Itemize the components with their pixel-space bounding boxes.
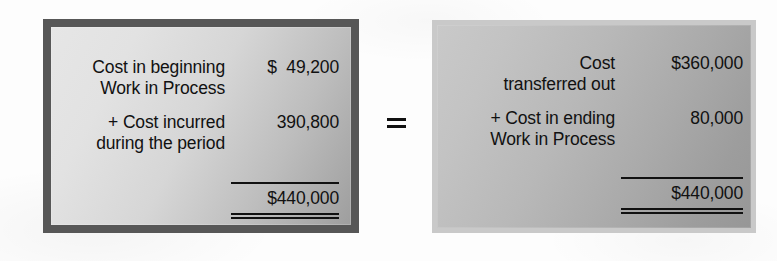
right-total-rule-top: [621, 177, 743, 179]
left-total-rule-top: [231, 182, 339, 184]
left-total-value: $440,000: [231, 187, 339, 209]
costs-accounted-for-panel: Cost transferred out $360,000 + Cost in …: [432, 20, 756, 233]
right-total-rule-double: [621, 208, 743, 214]
left-total-block: $440,000: [231, 182, 339, 219]
right-row-ending-wip-amount: 80,000: [621, 108, 743, 129]
left-row-cost-incurred-label: + Cost incurred during the period: [63, 112, 225, 154]
left-total-rule-double: [231, 213, 339, 219]
equals-icon: [387, 118, 406, 131]
right-total-block: $440,000: [621, 177, 743, 214]
right-row-transferred-out: Cost transferred out $360,000: [445, 53, 743, 95]
costs-to-account-for-panel: Cost in beginning Work in Process $ 49,2…: [43, 19, 359, 233]
equals-bar-top: [387, 118, 406, 121]
right-row-transferred-out-amount: $360,000: [621, 53, 743, 74]
right-row-ending-wip-label: + Cost in ending Work in Process: [445, 108, 615, 150]
left-panel-rows: Cost in beginning Work in Process $ 49,2…: [51, 27, 351, 225]
equals-bar-bottom: [387, 125, 406, 128]
right-row-transferred-out-label: Cost transferred out: [445, 53, 615, 95]
left-row-beginning-wip-label: Cost in beginning Work in Process: [63, 57, 225, 99]
left-row-cost-incurred: + Cost incurred during the period 390,80…: [63, 112, 339, 154]
right-row-ending-wip: + Cost in ending Work in Process 80,000: [445, 108, 743, 150]
right-total-value: $440,000: [621, 182, 743, 204]
left-row-beginning-wip-amount: $ 49,200: [231, 57, 339, 78]
cost-reconciliation-diagram: Cost in beginning Work in Process $ 49,2…: [0, 0, 777, 261]
left-row-cost-incurred-amount: 390,800: [231, 112, 339, 133]
left-row-beginning-wip: Cost in beginning Work in Process $ 49,2…: [63, 57, 339, 99]
right-panel-rows: Cost transferred out $360,000 + Cost in …: [437, 25, 751, 228]
